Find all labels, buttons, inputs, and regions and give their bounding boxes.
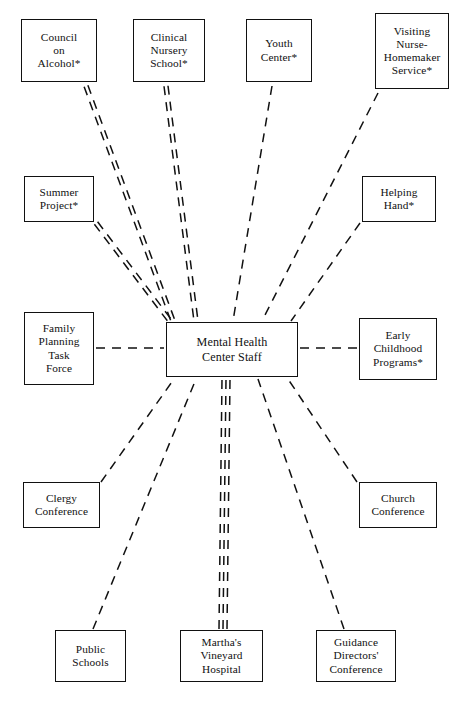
node-label-clinical-nursery-school: Clinical Nursery School*	[148, 31, 190, 70]
connector-line	[262, 93, 378, 321]
connector-line	[94, 224, 168, 322]
node-center[interactable]: Mental Health Center Staff	[166, 322, 298, 377]
network-diagram: Council on Alcohol*Clinical Nursery Scho…	[0, 0, 456, 707]
node-label-youth-center: Youth Center*	[259, 37, 299, 63]
node-helping-hand[interactable]: Helping Hand*	[362, 176, 436, 222]
connector-line	[93, 379, 196, 629]
connector-line	[98, 222, 172, 320]
edge-council-on-alcohol	[84, 85, 175, 321]
connector-line	[84, 87, 171, 322]
node-visiting-nurse-homemaker-service[interactable]: Visiting Nurse- Homemaker Service*	[375, 13, 449, 89]
connector-line	[219, 379, 222, 629]
edge-clergy-conference	[101, 379, 174, 482]
connector-line	[227, 379, 230, 629]
edge-marthas-vineyard-hospital	[219, 379, 230, 629]
node-label-helping-hand: Helping Hand*	[378, 186, 419, 212]
connector-line	[233, 86, 272, 321]
node-marthas-vineyard-hospital[interactable]: Martha's Vineyard Hospital	[180, 630, 263, 682]
node-family-planning-task-force[interactable]: Family Planning Task Force	[24, 312, 94, 385]
node-guidance-directors-conference[interactable]: Guidance Directors' Conference	[316, 630, 396, 682]
node-clergy-conference[interactable]: Clergy Conference	[23, 482, 100, 528]
node-council-on-alcohol[interactable]: Council on Alcohol*	[21, 19, 97, 82]
connector-line	[258, 379, 344, 629]
node-summer-project[interactable]: Summer Project*	[24, 176, 94, 222]
edge-clinical-nursery-school	[164, 86, 198, 322]
edge-helping-hand	[291, 223, 360, 321]
connector-line	[223, 379, 226, 629]
connector-line	[101, 379, 174, 482]
node-label-family-planning-task-force: Family Planning Task Force	[37, 322, 82, 374]
connector-line	[164, 86, 194, 321]
node-label-summer-project: Summer Project*	[38, 186, 81, 212]
node-label-church-conference: Church Conference	[369, 492, 426, 518]
connector-line	[291, 223, 360, 321]
edge-guidance-directors-conference	[258, 379, 344, 629]
node-label-visiting-nurse-homemaker-service: Visiting Nurse- Homemaker Service*	[382, 25, 443, 77]
node-label-center: Mental Health Center Staff	[195, 335, 270, 363]
node-clinical-nursery-school[interactable]: Clinical Nursery School*	[133, 19, 205, 82]
node-label-marthas-vineyard-hospital: Martha's Vineyard Hospital	[198, 636, 244, 675]
edge-church-conference	[288, 379, 357, 482]
connector-line	[288, 379, 357, 482]
edge-public-schools	[93, 379, 196, 629]
node-label-early-childhood-programs: Early Childhood Programs*	[371, 329, 425, 368]
node-early-childhood-programs[interactable]: Early Childhood Programs*	[359, 318, 437, 380]
node-label-council-on-alcohol: Council on Alcohol*	[36, 31, 83, 70]
node-youth-center[interactable]: Youth Center*	[246, 19, 312, 82]
connector-line	[168, 86, 198, 321]
node-label-guidance-directors-conference: Guidance Directors' Conference	[327, 636, 384, 675]
connector-line	[88, 85, 175, 320]
node-label-clergy-conference: Clergy Conference	[33, 492, 90, 518]
edge-summer-project	[94, 222, 171, 322]
edge-youth-center	[233, 86, 272, 321]
node-public-schools[interactable]: Public Schools	[55, 630, 126, 682]
edge-visiting-nurse-homemaker-service	[262, 93, 378, 321]
node-label-public-schools: Public Schools	[70, 643, 110, 669]
node-church-conference[interactable]: Church Conference	[359, 482, 437, 528]
